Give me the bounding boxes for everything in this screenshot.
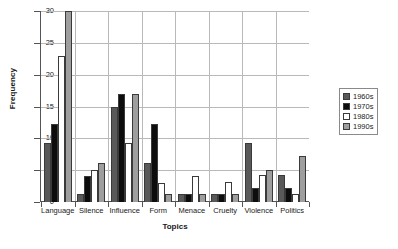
bar-group	[242, 11, 276, 202]
x-axis-labels: LanguageSilenceInfluenceFormMenaceCruelt…	[41, 206, 309, 215]
bar	[91, 170, 98, 202]
bar	[111, 107, 118, 203]
legend-label: 1980s	[353, 113, 373, 121]
bar	[218, 194, 225, 202]
bar	[77, 194, 84, 202]
legend-label: 1970s	[353, 103, 373, 111]
legend-label: 1960s	[353, 93, 373, 101]
y-tick-mark	[34, 202, 40, 203]
bar	[125, 143, 132, 202]
x-tick-mark	[309, 202, 310, 207]
bar	[51, 124, 58, 202]
bar	[199, 194, 206, 202]
legend-item: 1980s	[343, 112, 373, 121]
bar	[259, 175, 266, 202]
legend-item: 1990s	[343, 122, 373, 131]
bar-group	[276, 11, 310, 202]
bar	[266, 170, 273, 202]
bar	[232, 194, 239, 202]
x-category-label: Influence	[108, 206, 142, 215]
bar-group	[108, 11, 142, 202]
bar	[285, 188, 292, 202]
bar	[158, 183, 165, 202]
bar-group	[209, 11, 243, 202]
chart-legend: 1960s1970s1980s1990s	[339, 88, 378, 135]
bar	[165, 194, 172, 202]
bar	[225, 182, 232, 202]
bar	[84, 176, 91, 202]
bar-group	[75, 11, 109, 202]
bar	[178, 194, 185, 202]
legend-swatch-icon	[343, 93, 350, 100]
bar	[192, 176, 199, 202]
legend-swatch-icon	[343, 103, 350, 110]
x-category-label: Form	[142, 206, 176, 215]
bar-group	[175, 11, 209, 202]
bar	[252, 188, 259, 202]
x-category-label: Menace	[175, 206, 209, 215]
bar-groups	[41, 11, 309, 202]
x-category-label: Cruelty	[209, 206, 243, 215]
bar	[144, 163, 151, 202]
bar	[151, 124, 158, 202]
legend-swatch-icon	[343, 113, 350, 120]
bar	[211, 194, 218, 202]
bar	[299, 156, 306, 202]
legend-item: 1970s	[343, 102, 373, 111]
x-axis-title: Topics	[41, 222, 309, 231]
bar	[278, 175, 285, 202]
bar	[185, 194, 192, 202]
legend-label: 1990s	[353, 123, 373, 131]
bar	[292, 194, 299, 202]
bar	[58, 56, 65, 202]
x-category-label: Violence	[242, 206, 276, 215]
bar	[65, 11, 72, 202]
bar-chart: Frequency 051015202530 LanguageSilenceIn…	[0, 0, 398, 249]
bar-group	[142, 11, 176, 202]
bar-group	[41, 11, 75, 202]
bar	[245, 143, 252, 202]
bar	[132, 94, 139, 202]
x-category-label: Language	[41, 206, 75, 215]
bar	[98, 163, 105, 202]
legend-item: 1960s	[343, 92, 373, 101]
legend-swatch-icon	[343, 123, 350, 130]
x-category-label: Silence	[75, 206, 109, 215]
y-axis-title: Frequency	[8, 49, 17, 129]
x-category-label: Politics	[276, 206, 310, 215]
bar	[44, 143, 51, 202]
bar	[118, 94, 125, 202]
